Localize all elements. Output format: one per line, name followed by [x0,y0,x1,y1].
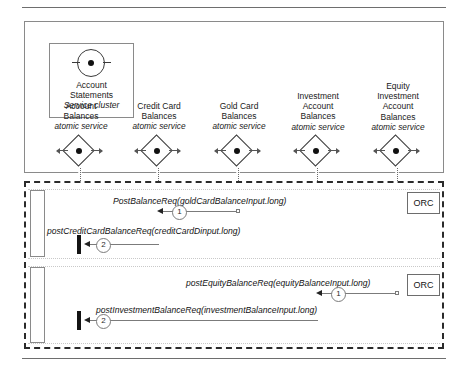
message-arrowhead-4 [84,317,90,323]
message-number-2: 2 [96,238,111,253]
message-line-3 [318,293,397,294]
service-name-line2: Investment [350,91,446,101]
execution-bar-2 [77,311,83,330]
atomic-service-equity-investment-account-balances[interactable]: Equity Investment Account Balances atomi… [350,81,446,168]
page-rule-top [22,7,446,8]
message-number-4: 2 [96,314,111,329]
cluster-name-line2: Statements [70,90,113,100]
execution-bar-1 [77,235,83,254]
message-arrowhead-1 [157,208,163,214]
message-label-1: PostBalanceReq(goldCardBalanceInput.long… [113,196,286,206]
message-endpoint-1 [236,209,240,213]
message-label-4: postInvestmentBalanceReq(investmentBalan… [96,305,317,315]
message-arrowhead-2 [84,241,90,247]
activation-bar-2 [30,267,45,343]
service-name-line3: Account [350,101,446,111]
page-rule-bottom [22,358,446,359]
message-number-3: 1 [331,287,346,302]
message-endpoint-3 [395,291,399,295]
cluster-name-line1: Account [76,80,107,90]
orchestrator-box-1[interactable]: ORC [407,192,440,214]
message-line-1 [159,211,238,212]
atomic-service-diamond-icon [350,134,446,168]
message-label-3: postEquityBalanceReq(equityBalanceInput.… [186,278,370,288]
message-number-1: 1 [172,205,187,220]
orchestrator-box-2[interactable]: ORC [407,274,440,296]
group-separator-bottom-1 [28,258,440,259]
group-separator-top-2 [28,266,440,267]
sequence-interaction-frame [24,181,444,349]
activation-bar-1 [30,190,45,257]
group-separator-bottom-2 [28,343,440,344]
service-cluster-panel: Account Statements Service cluster Accou… [24,21,444,173]
service-cluster-circle-icon [72,49,112,79]
group-separator-top-1 [28,189,440,190]
service-name-line1: Equity [350,81,446,91]
message-line-4 [88,320,318,321]
message-arrowhead-3 [316,290,322,296]
service-name-line4: Balances [350,112,446,122]
service-stereotype: atomic service [350,122,446,132]
